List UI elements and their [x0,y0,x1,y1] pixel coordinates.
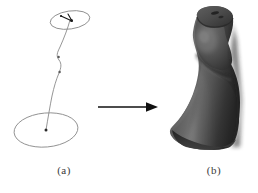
spine-knot-marker [58,71,60,73]
panel-a-wireframe [0,0,130,160]
caption-a: (a) [34,164,94,176]
wireframe-diagram [0,0,130,160]
spine-base-point [45,129,48,132]
arrow-region [96,94,160,120]
transformation-arrow-icon [96,94,160,120]
cross-section-frame-marker [60,14,73,22]
panel-b-rendered-surface [158,0,258,160]
swept-surface-render [158,0,258,160]
figure-container: (a) (b) [0,0,258,193]
caption-b: (b) [184,164,244,176]
spine-knot-marker [57,56,59,58]
